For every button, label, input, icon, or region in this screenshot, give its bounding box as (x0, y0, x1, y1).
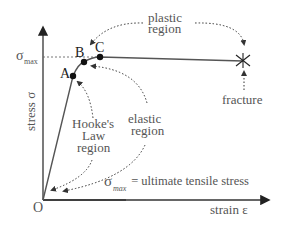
point-b-label: B (75, 45, 84, 60)
elastic-line2: region (131, 123, 165, 138)
legend-text: = ultimate tensile stress (128, 174, 249, 188)
hooke-line3: region (77, 140, 111, 155)
sigma-max-sub: max (24, 57, 38, 66)
point-a (70, 73, 76, 79)
elastic-arrow-up (92, 66, 147, 103)
stress-strain-diagram: O strain ε stress σ σ max A B C plastic … (0, 0, 289, 226)
fracture-label: fracture (222, 92, 263, 107)
legend-sigma: σ (104, 173, 112, 189)
x-axis-label: strain ε (210, 202, 248, 217)
origin-label: O (33, 200, 43, 215)
point-c-label: C (95, 40, 104, 55)
plastic-arrow-to-fracture (195, 23, 244, 44)
y-axis-label: stress σ (23, 92, 38, 131)
sigma-max-symbol: σ (16, 48, 24, 63)
point-a-label: A (60, 66, 71, 81)
plastic-region-line2: region (148, 21, 182, 36)
hooke-arrow-up (78, 82, 93, 118)
legend-sub: max (113, 184, 127, 193)
